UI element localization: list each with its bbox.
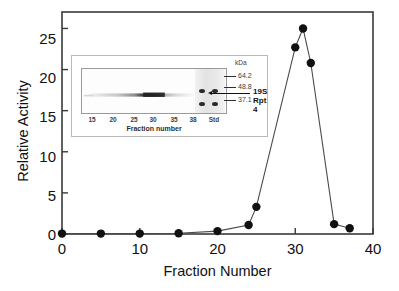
annotation-rpt4: Rpt 4 bbox=[253, 96, 267, 114]
mw-label-48: 48.8 bbox=[238, 83, 252, 90]
mw-leader-line-64 bbox=[224, 76, 236, 77]
kda-caption: kDa bbox=[235, 59, 247, 66]
data-point bbox=[291, 43, 299, 51]
data-point bbox=[174, 229, 182, 237]
mw-label-37: 37.1 bbox=[238, 96, 252, 103]
data-point bbox=[345, 224, 353, 232]
data-point bbox=[330, 220, 338, 228]
data-point bbox=[97, 229, 105, 237]
plot-canvas bbox=[0, 0, 399, 291]
data-point bbox=[58, 229, 66, 237]
std-band-48 bbox=[199, 89, 205, 93]
data-point bbox=[136, 229, 144, 237]
gel-tick-label: 30 bbox=[149, 116, 156, 123]
figure-root: 0 5 10 15 20 25 0 10 20 30 40 Fraction N… bbox=[0, 0, 399, 291]
gel-inset: 15 20 25 30 35 38 Std Fraction number kD… bbox=[71, 55, 268, 137]
data-point bbox=[307, 59, 315, 67]
annotation-19s: 19S bbox=[253, 87, 267, 96]
mw-leader-line-37 bbox=[224, 100, 236, 101]
data-point bbox=[213, 227, 221, 235]
gel-tick-label: 38 bbox=[189, 116, 196, 123]
std-band-37 bbox=[199, 102, 205, 106]
data-point bbox=[252, 203, 260, 211]
gel-tick-label: 20 bbox=[109, 116, 116, 123]
gel-tick-label: Std bbox=[209, 116, 219, 123]
gel-tick-label: 15 bbox=[88, 116, 95, 123]
data-point bbox=[244, 221, 252, 229]
data-point bbox=[299, 24, 307, 32]
rpt4-arrow-head bbox=[208, 91, 212, 95]
gel-tick-label: 25 bbox=[130, 116, 137, 123]
gel-tick-label: 35 bbox=[170, 116, 177, 123]
mw-leader-line-48 bbox=[224, 87, 236, 88]
gel-x-axis-title: Fraction number bbox=[81, 125, 227, 132]
mw-label-64: 64.2 bbox=[238, 72, 252, 79]
std-band-37b bbox=[212, 102, 218, 106]
rpt4-arrow-line bbox=[212, 93, 250, 94]
gel-image bbox=[81, 68, 227, 114]
